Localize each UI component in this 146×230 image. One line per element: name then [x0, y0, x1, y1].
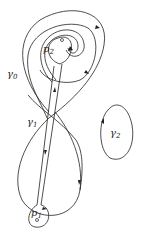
- arrow-icon: [68, 46, 73, 51]
- curve-gamma1-inner-b: [45, 35, 78, 80]
- label-gamma0: γ0: [7, 68, 18, 81]
- label-p1: p1: [31, 207, 42, 220]
- curve-gamma1-inner-a: [41, 30, 84, 82]
- point-p2-marker: [61, 39, 64, 42]
- label-gamma2: γ2: [110, 127, 121, 140]
- curves-diagram: p2 p1 γ0 γ1 γ2: [0, 0, 146, 230]
- arrow-icon: [95, 25, 100, 29]
- arrow-icon: [44, 150, 47, 155]
- label-gamma1: γ1: [27, 116, 37, 129]
- arrow-icon: [53, 87, 56, 92]
